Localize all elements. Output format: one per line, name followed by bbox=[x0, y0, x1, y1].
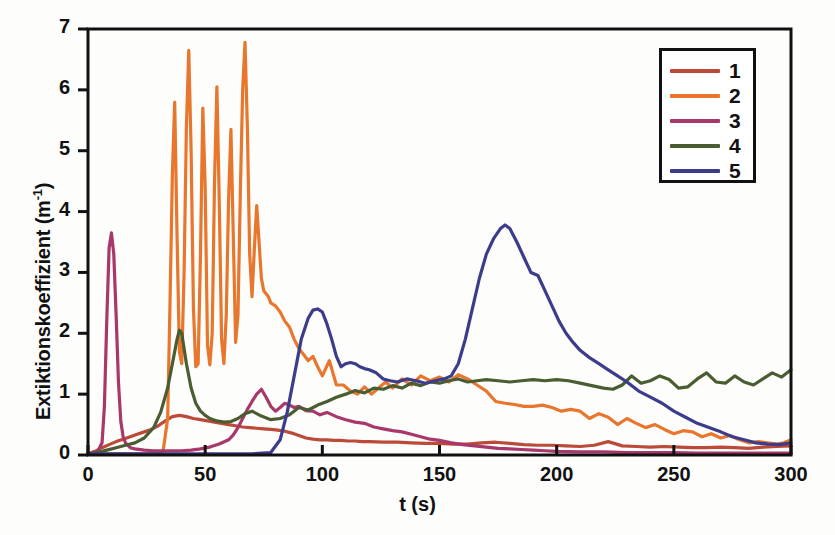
legend-label-4: 4 bbox=[729, 135, 741, 156]
legend-label-5: 5 bbox=[729, 160, 741, 181]
y-tick-label: 2 bbox=[44, 319, 70, 342]
legend-swatch-5 bbox=[670, 169, 720, 173]
legend: 12345 bbox=[659, 48, 756, 183]
legend-swatch-2 bbox=[670, 94, 720, 98]
y-axis-label-exponent: -1 bbox=[30, 189, 45, 200]
legend-label-1: 1 bbox=[729, 60, 741, 81]
legend-swatch-3 bbox=[670, 119, 720, 123]
y-tick-label: 7 bbox=[44, 15, 70, 38]
x-tick-label: 250 bbox=[644, 463, 704, 486]
chart-figure: Extiktionskoeffizient (m-1) t (s) 050100… bbox=[0, 0, 835, 535]
legend-item-4[interactable]: 4 bbox=[662, 132, 759, 159]
y-tick-label: 3 bbox=[44, 258, 70, 281]
y-tick-label: 4 bbox=[44, 198, 70, 221]
legend-label-3: 3 bbox=[729, 110, 741, 131]
x-axis-label-text: t (s) bbox=[399, 493, 436, 515]
legend-item-5[interactable]: 5 bbox=[662, 157, 759, 184]
series-line-4 bbox=[88, 330, 791, 454]
y-tick-label: 6 bbox=[44, 76, 70, 99]
legend-swatch-4 bbox=[670, 144, 720, 148]
y-tick-label: 0 bbox=[44, 441, 70, 464]
y-axis-label-tail: ) bbox=[32, 183, 54, 189]
legend-swatch-1 bbox=[670, 69, 720, 73]
y-tick-label: 5 bbox=[44, 137, 70, 160]
x-tick-label: 0 bbox=[58, 463, 118, 486]
legend-item-2[interactable]: 2 bbox=[662, 82, 759, 109]
x-tick-label: 150 bbox=[410, 463, 470, 486]
legend-label-2: 2 bbox=[729, 85, 741, 106]
legend-item-1[interactable]: 1 bbox=[662, 57, 759, 84]
x-tick-label: 200 bbox=[527, 463, 587, 486]
x-tick-label: 100 bbox=[292, 463, 352, 486]
legend-item-3[interactable]: 3 bbox=[662, 107, 759, 134]
x-tick-label: 300 bbox=[761, 463, 821, 486]
x-axis-label: t (s) bbox=[0, 493, 835, 516]
y-tick-label: 1 bbox=[44, 380, 70, 403]
x-tick-label: 50 bbox=[175, 463, 235, 486]
